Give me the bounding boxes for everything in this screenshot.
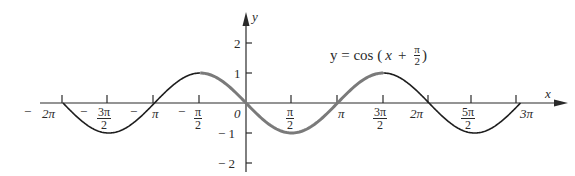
y-axis-arrow-icon: [243, 12, 250, 26]
origin-label: 0: [234, 107, 241, 120]
x-axis-arrow-icon: [554, 100, 568, 107]
x-tick-label-neg-pi: π: [152, 107, 159, 120]
x-tick-label-3pi-2: 3π2: [373, 106, 387, 131]
y-tick-label-neg2: − 2: [218, 157, 235, 170]
y-axis-label: y: [252, 10, 258, 23]
x-axis-label: x: [545, 87, 551, 100]
x-tick-label-neg-2pi: 2π: [42, 107, 55, 120]
y-tick-label-neg1: − 1: [218, 127, 235, 140]
x-tick-label-3pi: 3π: [520, 107, 533, 120]
x-tick-label-pi: π: [338, 107, 345, 120]
x-tick-label-2pi: 2π: [410, 107, 423, 120]
x-tick-minus: −: [80, 104, 87, 120]
x-tick-minus: −: [24, 104, 31, 120]
x-tick-label-neg-3pi-2: 3π2: [97, 106, 111, 131]
x-tick-minus: −: [130, 104, 137, 120]
equation-annotation: y = cos ( x + π2 ): [330, 44, 427, 67]
x-ticks: [62, 95, 516, 103]
x-tick-minus: −: [178, 104, 185, 120]
plot-area: [0, 0, 575, 176]
x-tick-label-pi-2: π2: [286, 106, 294, 131]
x-tick-label-5pi-2: 5π2: [461, 106, 475, 131]
y-tick-label-1: 1: [234, 67, 241, 80]
y-tick-label-2: 2: [234, 37, 241, 50]
x-tick-label-neg-pi-2: π2: [194, 106, 202, 131]
